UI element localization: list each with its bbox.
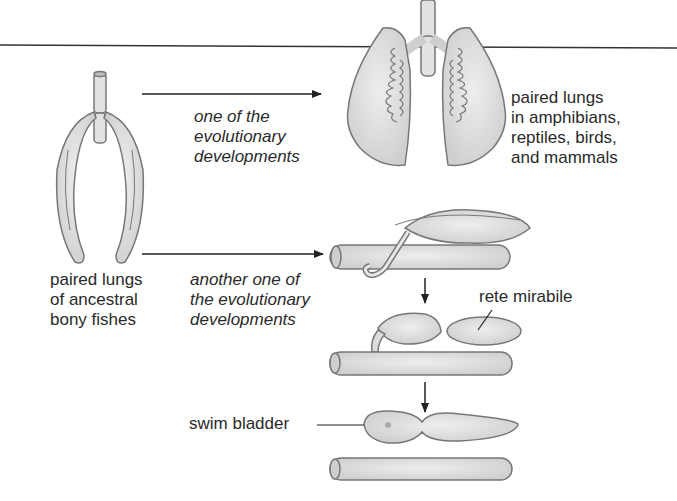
label-path-two: another one of the evolutionary developm… bbox=[190, 270, 310, 330]
diagram-artwork bbox=[0, 0, 677, 501]
label-path-one: one of the evolutionary developments bbox=[194, 107, 300, 167]
ancestral-lungs-illustration bbox=[57, 72, 144, 264]
swim-bladder-stage-2-illustration bbox=[330, 313, 521, 375]
tetrapod-lungs-illustration bbox=[348, 0, 506, 165]
label-ancestral-lungs: paired lungs of ancestral bony fishes bbox=[50, 270, 143, 330]
diagram-canvas: one of the evolutionary developments pai… bbox=[0, 0, 677, 501]
swim-bladder-stage-3-illustration bbox=[330, 411, 518, 480]
label-tetrapod-lungs: paired lungs in amphibians, reptiles, bi… bbox=[511, 88, 621, 168]
top-divider-line bbox=[0, 45, 677, 48]
swim-bladder-stage-1-illustration bbox=[330, 210, 530, 275]
label-swim-bladder: swim bladder bbox=[189, 414, 289, 434]
label-rete-mirabile: rete mirabile bbox=[479, 287, 573, 307]
